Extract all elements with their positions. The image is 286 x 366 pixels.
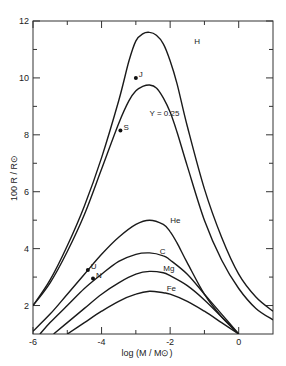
curve-label: Mg: [163, 264, 174, 273]
point-s: S: [118, 123, 128, 133]
point-n: N: [91, 271, 102, 281]
curves: [33, 32, 273, 334]
curve-label: C: [160, 247, 166, 256]
point-label: N: [96, 271, 102, 280]
y-tick-label: 4: [24, 244, 29, 254]
y-tick-label: 6: [24, 187, 29, 197]
curve-fe: [67, 291, 238, 334]
point-marker: [118, 129, 122, 133]
y-tick-label: 8: [24, 130, 29, 140]
y-tick-label: 12: [19, 16, 29, 26]
point-label: S: [123, 123, 128, 132]
curve-y-0-25: [33, 85, 273, 320]
x-tick-label: 0: [236, 337, 241, 347]
x-axis-label: log (M / M⊙): [121, 348, 172, 358]
data-points: JSUN: [86, 70, 143, 281]
x-tick-label: -2: [166, 337, 174, 347]
y-tick-label: 2: [24, 301, 29, 311]
y-axis-label: 100 R / R⊙: [9, 155, 19, 201]
curve-label: Y = 0.25: [150, 109, 180, 118]
x-tick-label: -4: [98, 337, 106, 347]
point-marker: [134, 76, 138, 80]
x-tick-label: -6: [29, 337, 37, 347]
y-tick-label: 10: [19, 73, 29, 83]
curve-label: Fe: [167, 284, 177, 293]
point-marker: [86, 268, 90, 272]
curve-h: [33, 32, 273, 311]
curve-he: [33, 220, 239, 334]
point-marker: [91, 277, 95, 281]
curve-label: H: [194, 37, 200, 46]
curve-label: He: [170, 216, 181, 225]
chart-figure: -6-4-2024681012 JSUN HY = 0.25HeCMgFe 10…: [0, 0, 286, 366]
point-j: J: [134, 70, 143, 80]
point-label: J: [139, 70, 143, 79]
